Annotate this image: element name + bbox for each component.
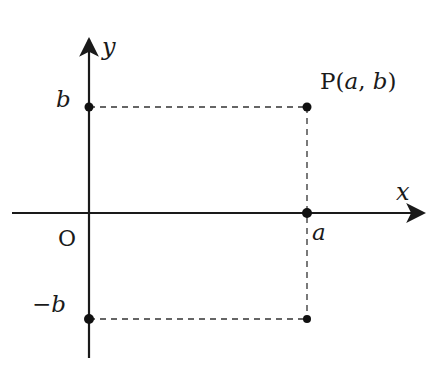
point-b — [85, 103, 94, 112]
point-a-neg-b — [303, 315, 311, 323]
label-neg-b: −b — [32, 291, 66, 317]
point-a — [302, 208, 312, 218]
point-neg-b — [84, 314, 94, 324]
coordinate-diagram: y x O b −b a P(a, b) — [0, 0, 440, 390]
point-P — [303, 103, 312, 112]
label-point-P: P(a, b) — [320, 68, 397, 94]
label-b: b — [56, 86, 71, 112]
x-axis-label: x — [396, 178, 410, 206]
y-axis-label: y — [101, 33, 116, 61]
label-a: a — [312, 219, 326, 245]
origin-label: O — [58, 226, 76, 251]
